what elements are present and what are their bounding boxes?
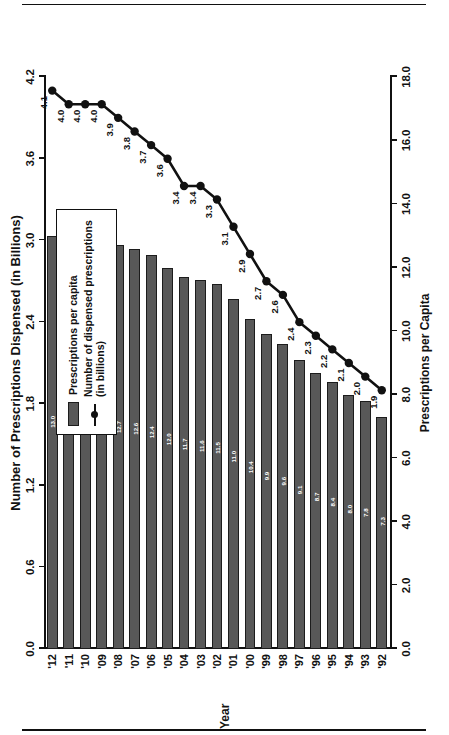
bar (343, 395, 354, 649)
line-data-point (48, 86, 56, 94)
chart-legend: Prescriptions per capita Number of dispe… (56, 209, 117, 435)
bar (360, 401, 371, 649)
line-point-value-label: 3.6 (154, 164, 165, 177)
secondary-axis-tick-label: 4.2 (24, 69, 36, 84)
bar-value-label: 11.6 (197, 440, 204, 452)
primary-axis-title: Prescriptions per Capita (418, 77, 432, 649)
bar-value-label: 7.3 (378, 517, 385, 526)
bar-value-label: 10.4 (246, 461, 253, 473)
line-point-value-label: 2.2 (318, 355, 329, 368)
line-point-value-label: 2.6 (269, 300, 280, 313)
bar-value-label: 12.0 (164, 433, 171, 445)
line-point-value-label: 1.9 (368, 396, 379, 409)
primary-axis-tick-label: 6.0 (400, 451, 412, 466)
primary-axis-tick-label: 2.0 (400, 578, 412, 593)
primary-axis-tick (390, 266, 397, 268)
legend-bar-swatch-icon (68, 402, 79, 426)
line-point-value-label: 2.9 (236, 259, 247, 272)
bar-value-label: 9.6 (279, 477, 286, 486)
bar-value-label: 8.0 (345, 505, 352, 514)
primary-axis-tick (390, 520, 397, 522)
legend-label-1: Number of dispensed prescriptions(in bil… (82, 220, 106, 397)
bar-value-label: 11.5 (214, 442, 221, 454)
chart-page: Number of Prescriptions Dispensed (in Bi… (0, 0, 449, 735)
secondary-axis-title: Number of Prescriptions Dispensed (in Bi… (8, 77, 23, 649)
line-data-point (65, 100, 73, 108)
bar (212, 284, 223, 649)
line-point-value-label: 2.0 (351, 382, 362, 395)
line-point-value-label: 3.7 (137, 151, 148, 164)
line-point-value-label: 3.9 (104, 123, 115, 136)
secondary-axis-tick-label: 0.0 (24, 641, 36, 656)
line-data-point (262, 277, 270, 285)
bar-value-label: 13.0 (49, 416, 56, 428)
primary-axis-tick-label: 4.0 (400, 514, 412, 529)
bar (245, 319, 256, 649)
line-point-value-label: 3.4 (187, 191, 198, 204)
primary-axis-tick-label: 14.0 (400, 193, 412, 215)
primary-axis-tick-label: 18.0 (400, 66, 412, 88)
chart-canvas: Number of Prescriptions Dispensed (in Bi… (0, 0, 449, 735)
category-axis-label: '12 (46, 654, 58, 669)
secondary-axis-tick-label: 3.0 (24, 233, 36, 248)
primary-axis-tick (390, 139, 397, 141)
primary-axis-tick (390, 203, 397, 205)
line-data-point (114, 114, 122, 122)
bar (310, 373, 321, 649)
bar (228, 299, 239, 649)
bar-value-label: 12.6 (131, 423, 138, 435)
line-data-point (345, 359, 353, 367)
bar (162, 268, 173, 649)
category-axis-label: '11 (63, 654, 75, 668)
primary-axis-tick (390, 648, 397, 650)
line-data-point (97, 100, 105, 108)
bar (376, 417, 387, 649)
line-point-value-label: 4.0 (55, 110, 66, 123)
line-point-value-label: 2.7 (252, 287, 263, 300)
category-axis-label: '97 (293, 654, 305, 669)
category-axis-label: '02 (211, 654, 223, 669)
bar (327, 382, 338, 649)
bar-value-label: 9.1 (296, 486, 303, 495)
category-axis-label: '10 (79, 654, 91, 669)
bar-value-label: 8.4 (329, 498, 336, 507)
line-data-point (196, 182, 204, 190)
bar-value-label: 11.0 (230, 451, 237, 463)
category-axis-label: '92 (376, 654, 388, 669)
bar-value-label: 11.7 (181, 439, 188, 451)
primary-axis-tick (390, 76, 397, 78)
line-data-point (213, 195, 221, 203)
category-axis-label: '09 (96, 654, 108, 669)
bar (294, 360, 305, 649)
category-axis-label: '00 (244, 654, 256, 669)
category-axis-label: '99 (260, 654, 272, 669)
bar (179, 277, 190, 649)
secondary-axis-tick-label: 1.2 (24, 478, 36, 493)
bar (195, 280, 206, 649)
category-axis-label: '93 (359, 654, 371, 669)
bar (146, 255, 157, 649)
line-data-point (81, 100, 89, 108)
bar-value-label: 7.8 (362, 508, 369, 517)
category-axis-label: '06 (145, 654, 157, 669)
category-axis-label: '96 (310, 654, 322, 669)
bar-value-label: 12.4 (148, 426, 155, 438)
primary-value-axis: 0.02.04.06.08.010.012.014.016.018.0 (390, 77, 392, 649)
primary-axis-tick-label: 12.0 (400, 257, 412, 279)
page-border-right-rule (22, 4, 426, 6)
legend-item-dispensed-prescriptions: Number of dispensed prescriptions(in bil… (82, 220, 106, 426)
legend-label-0: Prescriptions per capita (67, 275, 79, 395)
line-point-value-label: 3.4 (170, 191, 181, 204)
category-axis-label: '01 (227, 654, 239, 669)
line-point-value-label: 3.1 (219, 232, 230, 245)
secondary-axis-tick-label: 3.6 (24, 151, 36, 166)
primary-axis-tick-label: 0.0 (400, 641, 412, 656)
category-axis-label: '07 (129, 654, 141, 669)
line-data-point (180, 182, 188, 190)
primary-axis-tick-label: 16.0 (400, 130, 412, 152)
legend-line-marker-icon (90, 404, 99, 426)
line-data-point (147, 141, 155, 149)
line-data-point (328, 345, 336, 353)
line-data-point (361, 372, 369, 380)
line-data-point (229, 223, 237, 231)
